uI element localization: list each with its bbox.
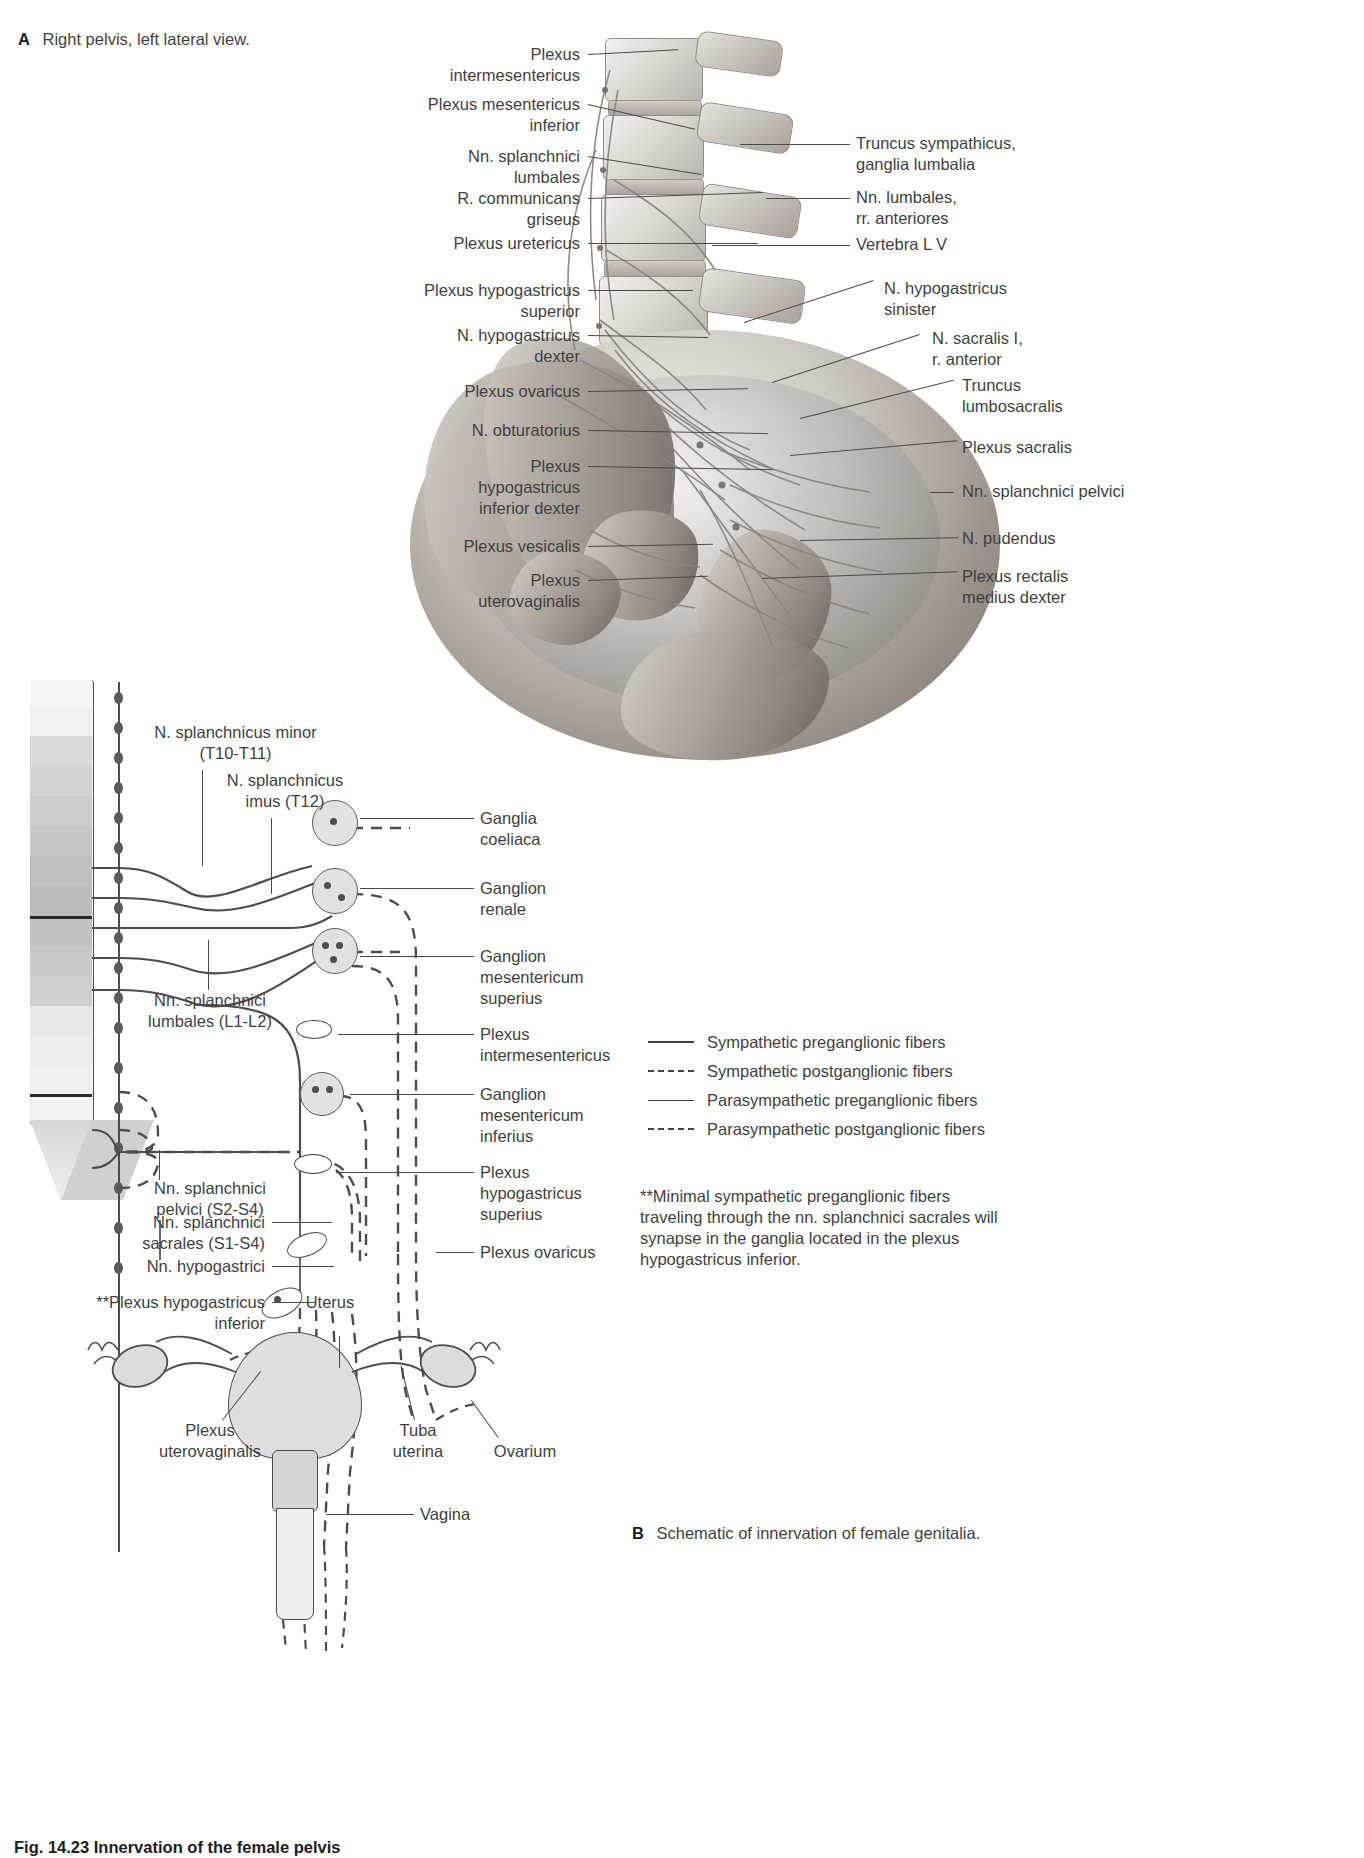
label-plexus-uretericus: Plexus uretericus — [250, 233, 580, 254]
label-r-communicans-griseus: R. communicans griseus — [250, 188, 580, 230]
leader-plexus-ovaricus-b — [436, 1252, 474, 1253]
panel-b-letter: B — [632, 1524, 644, 1542]
label-n-splanchnicus-minor: N. splanchnicus minor (T10-T11) — [128, 722, 343, 764]
legend-line-dashed-icon — [648, 1128, 694, 1130]
leader-ganglion-renale — [360, 888, 474, 889]
label-ganglion-mesentericum-superius: Ganglion mesentericum superius — [480, 946, 700, 1009]
label-ganglia-coeliaca: Ganglia coeliaca — [480, 808, 700, 850]
label-ganglion-renale: Ganglion renale — [480, 878, 700, 920]
panel-a-caption-text: Right pelvis, left lateral view. — [43, 30, 250, 48]
legend-row: Sympathetic postganglionic fibers — [648, 1061, 1048, 1081]
legend-row: Parasympathetic postganglionic fibers — [648, 1119, 1048, 1139]
label-nn-splanchnici-lumbales: Nn. splanchnici lumbales — [250, 146, 580, 188]
leader-plexus-hypogastricus-superior — [588, 290, 693, 291]
label-plexus-vesicalis: Plexus vesicalis — [180, 536, 580, 557]
label-ovarium: Ovarium — [460, 1441, 590, 1462]
label-plexus-hypogastricus-superior: Plexus hypogastricus superior — [230, 280, 580, 322]
label-plexus-sacralis: Plexus sacralis — [962, 437, 1292, 458]
leader-plexus-hypogastricus-superius-b — [336, 1172, 474, 1173]
legend-line-solid-icon — [648, 1041, 694, 1043]
label-plexus-uterovaginalis-b: Plexus uterovaginalis — [120, 1420, 300, 1462]
label-vertebra-lv: Vertebra L V — [856, 234, 1186, 255]
panel-b-caption-text: Schematic of innervation of female genit… — [657, 1524, 981, 1542]
label-plexus-rectalis-medius-dexter: Plexus rectalis medius dexter — [962, 566, 1292, 608]
label-n-hypogastricus-dexter: N. hypogastricus dexter — [230, 325, 580, 367]
leader-truncus-sympathicus — [740, 144, 850, 145]
label-nn-lumbales-rr-anteriores: Nn. lumbales, rr. anteriores — [856, 187, 1186, 229]
label-plexus-ovaricus: Plexus ovaricus — [180, 381, 580, 402]
label-vagina: Vagina — [420, 1504, 560, 1525]
label-plexus-hypogastricus-inferior-b: **Plexus hypogastricus inferior — [14, 1292, 265, 1334]
legend-line-dashed-icon — [648, 1070, 694, 1072]
leader-nn-splanchnici-pelvici-a — [930, 492, 954, 493]
panel-a-letter: A — [18, 30, 30, 48]
legend-label: Parasympathetic preganglionic fibers — [707, 1090, 978, 1110]
leader-nn-hypogastrici — [272, 1266, 334, 1267]
leader-vagina — [326, 1514, 414, 1515]
leader-ganglia-coeliaca — [360, 818, 474, 819]
leader-nn-splanchnici-lumbales-b — [208, 940, 209, 990]
label-nn-hypogastrici: Nn. hypogastrici — [40, 1256, 265, 1277]
label-truncus-sympathicus: Truncus sympathicus, ganglia lumbalia — [856, 133, 1186, 175]
leader-nn-splanchnici-sacrales — [272, 1222, 332, 1223]
legend-row: Sympathetic preganglionic fibers — [648, 1032, 1048, 1052]
leader-ganglion-mesentericum-inferius — [350, 1094, 474, 1095]
label-plexus-intermesentericus: Plexus intermesentericus — [250, 44, 580, 86]
legend-footnote: **Minimal sympathetic preganglionic fibe… — [640, 1186, 1010, 1270]
label-uterus: Uterus — [270, 1292, 390, 1313]
leader-uterus — [339, 1336, 340, 1368]
legend-label: Parasympathetic postganglionic fibers — [707, 1119, 985, 1139]
leader-n-splanchnicus-imus — [271, 818, 272, 894]
figure-caption: Fig. 14.23 Innervation of the female pel… — [14, 1838, 340, 1857]
legend: Sympathetic preganglionic fibers Sympath… — [648, 1032, 1048, 1148]
leader-plexus-uretericus — [588, 243, 758, 244]
label-plexus-mesentericus-inferior: Plexus mesentericus inferior — [250, 94, 580, 136]
label-n-splanchnicus-imus: N. splanchnicus imus (T12) — [190, 770, 380, 812]
label-n-obturatorius: N. obturatorius — [180, 420, 580, 441]
legend-line-solid-thin-icon — [648, 1100, 694, 1101]
label-n-pudendus: N. pudendus — [962, 528, 1292, 549]
label-nn-splanchnici-lumbales-b: Nn. splanchnici lumbales (L1-L2) — [110, 990, 310, 1032]
legend-row: Parasympathetic preganglionic fibers — [648, 1090, 1048, 1110]
label-n-sacralis-i: N. sacralis I, r. anterior — [932, 328, 1262, 370]
label-plexus-uterovaginalis-a: Plexus uterovaginalis — [180, 570, 580, 612]
label-nn-splanchnici-sacrales: Nn. splanchnici sacrales (S1-S4) — [40, 1212, 265, 1254]
leader-plexus-intermesentericus-b — [338, 1034, 474, 1035]
label-nn-splanchnici-pelvici-a: Nn. splanchnici pelvici — [962, 481, 1302, 502]
leader-ganglion-mesentericum-superius — [360, 956, 474, 957]
label-n-hypogastricus-sinister: N. hypogastricus sinister — [884, 278, 1214, 320]
leader-nn-splanchnici-pelvici-b — [159, 1150, 160, 1180]
label-truncus-lumbosacralis: Truncus lumbosacralis — [962, 375, 1292, 417]
label-plexus-hypogastricus-inferior-dexter: Plexus hypogastricus inferior dexter — [180, 456, 580, 519]
legend-label: Sympathetic postganglionic fibers — [707, 1061, 953, 1081]
panel-b-caption-row: B Schematic of innervation of female gen… — [632, 1524, 980, 1543]
panel-a-caption-row: A Right pelvis, left lateral view. — [18, 30, 250, 49]
leader-vertebra-lv — [712, 245, 850, 246]
legend-label: Sympathetic preganglionic fibers — [707, 1032, 945, 1052]
leader-nn-lumbales-rr-anteriores — [766, 198, 850, 199]
